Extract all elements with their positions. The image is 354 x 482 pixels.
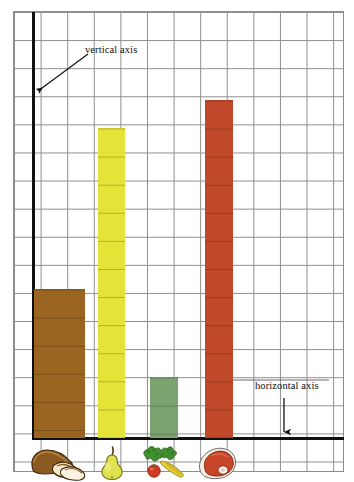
bar-pear-fill bbox=[98, 128, 125, 438]
bar-chart-screenshot: 5.3 11 2.2 12 vertical axis horizontal a… bbox=[0, 0, 354, 482]
bread-icon: bread bbox=[24, 445, 90, 481]
vertical-axis-annotation-arrow bbox=[30, 52, 92, 97]
meat-icon: meat bbox=[196, 445, 242, 481]
vegetables-icon: vegetables bbox=[140, 443, 190, 481]
plot-area: 5.3 11 2.2 12 vertical axis horizontal a… bbox=[0, 0, 354, 482]
bar-bread-fill bbox=[34, 289, 85, 438]
bar-vegetables-fill bbox=[150, 377, 178, 438]
bar-pear: 11 bbox=[98, 128, 125, 438]
bar-bread: 5.3 bbox=[34, 289, 85, 438]
category-icon-row: bread pear bbox=[0, 440, 354, 482]
pear-icon: pear bbox=[95, 443, 129, 481]
bar-vegetables: 2.2 bbox=[150, 377, 178, 438]
horizontal-axis-annotation-arrow bbox=[225, 374, 335, 440]
vertical-axis-annotation-label: vertical axis bbox=[85, 44, 137, 55]
